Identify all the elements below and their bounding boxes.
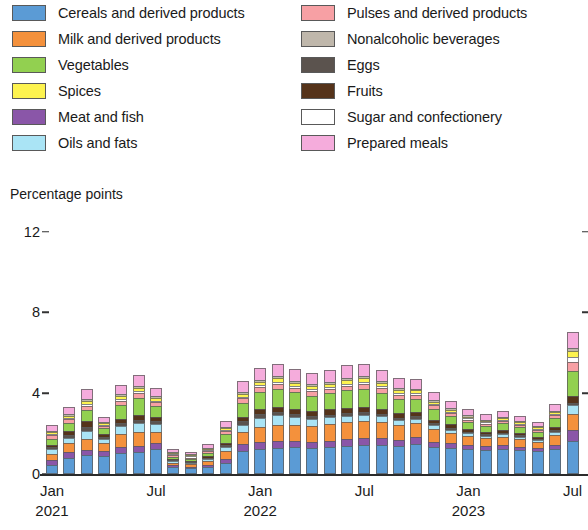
legend-item-sugar[interactable]: Sugar and confectionery xyxy=(301,104,588,130)
bar-mar-2022[interactable] xyxy=(289,369,301,474)
bar-segment-cereals-and-derived-products xyxy=(150,449,162,474)
bar-segment-prepared-meals xyxy=(289,369,301,381)
bar-feb-2023[interactable] xyxy=(480,414,492,474)
legend-item-eggs[interactable]: Eggs xyxy=(301,52,588,78)
bar-jan-2021[interactable] xyxy=(46,425,58,474)
x-axis-year-4: 2023 xyxy=(452,502,485,519)
bar-dec-2022[interactable] xyxy=(445,401,457,474)
bar-jan-2023[interactable] xyxy=(462,409,474,474)
legend-item-spices[interactable]: Spices xyxy=(12,78,301,104)
bar-may-2022[interactable] xyxy=(324,370,336,474)
bar-dec-2021[interactable] xyxy=(237,381,249,474)
bar-segment-milk-and-derived-products xyxy=(133,432,145,446)
bar-segment-vegetables xyxy=(306,396,318,412)
bar-mar-2021[interactable] xyxy=(81,389,93,474)
x-axis-label-4: Jan2023 xyxy=(452,482,485,519)
legend-item-milk[interactable]: Milk and derived products xyxy=(12,26,301,52)
bar-apr-2023[interactable] xyxy=(514,416,526,474)
x-axis-month-1: Jul xyxy=(147,482,166,499)
x-axis-labels: Jan2021JulJan2022JulJan2023Jul xyxy=(0,482,588,530)
bar-segment-cereals-and-derived-products xyxy=(532,451,544,474)
bar-jun-2022[interactable] xyxy=(341,365,353,474)
legend-swatch-prepared xyxy=(301,135,335,151)
bar-segment-cereals-and-derived-products xyxy=(306,448,318,474)
bar-segment-fruits xyxy=(567,396,579,403)
bar-segment-prepared-meals xyxy=(567,332,579,349)
legend-label-spices: Spices xyxy=(58,83,101,99)
legend-item-cereals[interactable]: Cereals and derived products xyxy=(12,0,301,26)
legend-label-eggs: Eggs xyxy=(347,57,380,73)
legend-item-nonalc_bev[interactable]: Nonalcoholic beverages xyxy=(301,26,588,52)
bar-segment-cereals-and-derived-products xyxy=(98,456,110,474)
bar-segment-oils-and-fats xyxy=(133,423,145,431)
legend-item-fruits[interactable]: Fruits xyxy=(301,78,588,104)
legend-item-meat_fish[interactable]: Meat and fish xyxy=(12,104,301,130)
bar-apr-2022[interactable] xyxy=(306,373,318,474)
bar-segment-cereals-and-derived-products xyxy=(393,446,405,474)
legend-swatch-meat_fish xyxy=(12,109,46,125)
bar-segment-milk-and-derived-products xyxy=(514,439,526,447)
bar-segment-cereals-and-derived-products xyxy=(63,458,75,474)
x-axis-year-2: 2022 xyxy=(244,502,277,519)
bar-jul-2022[interactable] xyxy=(358,364,370,474)
legend-label-oils_fats: Oils and fats xyxy=(58,135,137,151)
bar-segment-milk-and-derived-products xyxy=(428,429,440,442)
bar-sep-2021[interactable] xyxy=(185,452,197,474)
bar-jul-2023[interactable] xyxy=(567,332,579,474)
legend-label-sugar: Sugar and confectionery xyxy=(347,109,502,125)
x-axis-label-0: Jan2021 xyxy=(35,482,68,519)
legend-label-fruits: Fruits xyxy=(347,83,383,99)
bar-sep-2022[interactable] xyxy=(393,378,405,474)
bar-segment-milk-and-derived-products xyxy=(289,425,301,441)
x-axis-label-3: Jul xyxy=(355,482,374,499)
bar-oct-2022[interactable] xyxy=(410,379,422,474)
bar-segment-oils-and-fats xyxy=(115,426,127,434)
bar-may-2023[interactable] xyxy=(532,422,544,474)
legend-item-pulses[interactable]: Pulses and derived products xyxy=(301,0,588,26)
bar-segment-pulses-and-derived-products xyxy=(567,362,579,371)
bar-segment-oils-and-fats xyxy=(254,418,266,427)
bar-segment-milk-and-derived-products xyxy=(567,414,579,429)
bar-segment-prepared-meals xyxy=(358,364,370,377)
legend-label-vegetables: Vegetables xyxy=(58,57,129,73)
legend-item-prepared[interactable]: Prepared meals xyxy=(301,130,588,156)
bar-mar-2023[interactable] xyxy=(497,411,509,474)
legend-swatch-eggs xyxy=(301,57,335,73)
bar-jun-2023[interactable] xyxy=(549,404,561,474)
bar-segment-milk-and-derived-products xyxy=(150,432,162,443)
bar-segment-prepared-meals xyxy=(81,389,93,399)
legend-item-oils_fats[interactable]: Oils and fats xyxy=(12,130,301,156)
bar-segment-milk-and-derived-products xyxy=(341,422,353,439)
bar-nov-2022[interactable] xyxy=(428,392,440,474)
chart-plot-area: 04812 xyxy=(0,220,588,482)
bar-segment-vegetables xyxy=(497,423,509,430)
bar-segment-milk-and-derived-products xyxy=(393,425,405,440)
legend-swatch-vegetables xyxy=(12,57,46,73)
x-axis-month-5: Jul xyxy=(563,482,582,499)
bar-may-2021[interactable] xyxy=(115,385,127,474)
bar-segment-meat-and-fish xyxy=(358,438,370,445)
bar-feb-2022[interactable] xyxy=(272,364,284,474)
bar-segment-vegetables xyxy=(549,418,561,427)
bar-segment-vegetables xyxy=(81,410,93,421)
bar-segment-vegetables xyxy=(237,403,249,417)
bar-aug-2021[interactable] xyxy=(167,449,179,474)
bar-segment-milk-and-derived-products xyxy=(272,425,284,441)
bar-segment-milk-and-derived-products xyxy=(98,443,110,451)
legend-item-vegetables[interactable]: Vegetables xyxy=(12,52,301,78)
bar-segment-cereals-and-derived-products xyxy=(237,451,249,474)
bar-segment-oils-and-fats xyxy=(272,415,284,424)
bar-segment-vegetables xyxy=(272,389,284,407)
bar-segment-prepared-meals xyxy=(376,370,388,382)
bar-jun-2021[interactable] xyxy=(133,375,145,474)
bar-segment-prepared-meals xyxy=(306,373,318,384)
bar-nov-2021[interactable] xyxy=(220,421,232,474)
bar-feb-2021[interactable] xyxy=(63,407,75,474)
bar-oct-2021[interactable] xyxy=(202,444,214,474)
legend-column-left: Cereals and derived productsMilk and der… xyxy=(0,0,301,172)
bar-jul-2021[interactable] xyxy=(150,388,162,474)
bar-aug-2022[interactable] xyxy=(376,370,388,474)
bar-jan-2022[interactable] xyxy=(254,368,266,474)
bar-segment-cereals-and-derived-products xyxy=(376,445,388,474)
bar-apr-2021[interactable] xyxy=(98,417,110,474)
